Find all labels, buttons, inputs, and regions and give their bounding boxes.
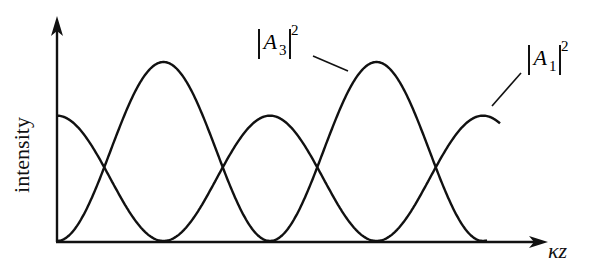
curve-label-a3: A32 [258,28,298,59]
y-axis-label: intensity [2,100,42,210]
leader-line-a3 [313,56,348,71]
curve-a3-intensity [57,62,487,241]
leader-line-a1 [492,73,521,106]
abs-bar-left [258,29,260,59]
curve-a1-intensity [57,116,500,241]
abs-bar-left [528,45,530,75]
x-axis-label: κz [548,238,567,264]
curve-label-a1: A12 [528,44,568,75]
